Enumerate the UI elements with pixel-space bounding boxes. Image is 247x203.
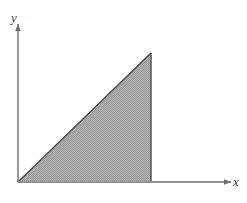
x-axis-label: x (232, 174, 239, 189)
y-axis-label: y (9, 10, 17, 25)
x-axis-arrow-icon (224, 179, 231, 185)
y-axis-arrow-icon (15, 24, 21, 31)
figure-container: x y (0, 0, 247, 203)
coordinate-diagram: x y (0, 0, 247, 203)
